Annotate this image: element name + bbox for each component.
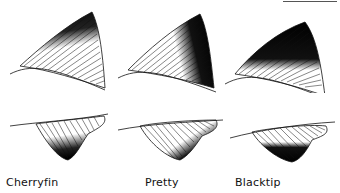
cherryfin-dorsal-fin (10, 8, 110, 93)
scale-bar (283, 1, 337, 2)
cherryfin-anal-fin (8, 112, 108, 167)
label-pretty: Pretty (145, 176, 179, 189)
pretty-dorsal-fin (118, 8, 218, 93)
pretty-anal-fin (118, 112, 223, 167)
blacktip-anal-fin (230, 112, 335, 167)
blacktip-dorsal-fin (225, 8, 330, 93)
label-cherryfin: Cherryfin (6, 176, 58, 189)
label-blacktip: Blacktip (235, 176, 281, 189)
